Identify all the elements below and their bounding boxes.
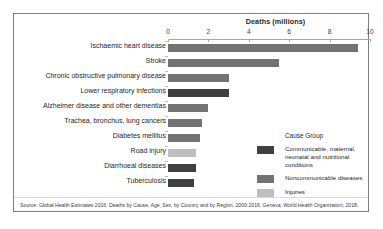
category-label: Lower respiratory infections [0, 87, 166, 94]
x-tick-label: 10 [366, 28, 373, 35]
category-label: Chronic obstructive pulmonary disease [0, 72, 166, 79]
bar [168, 119, 202, 127]
x-axis-title: Deaths (millions) [168, 17, 383, 26]
legend: Cause Group Communicable, maternal, neon… [257, 132, 377, 202]
category-label: Ischaemic heart disease [0, 42, 166, 49]
chart-row: Trachea, bronchus, lung cancers [168, 116, 370, 131]
category-label: Alzheimer disease and other dementias [0, 102, 166, 109]
x-tick-label: 0 [166, 28, 170, 35]
legend-label: Injuries [285, 188, 305, 196]
bar [168, 44, 358, 52]
chart-row: Alzheimer disease and other dementias [168, 101, 370, 116]
bar [168, 104, 208, 112]
legend-label: Communicable, maternal, neonatal and nut… [285, 145, 377, 169]
x-tick-label: 4 [247, 28, 251, 35]
x-tick-label: 2 [207, 28, 211, 35]
legend-item[interactable]: Communicable, maternal, neonatal and nut… [257, 145, 377, 169]
category-label: Road injury [0, 147, 166, 154]
chart-row: Chronic obstructive pulmonary disease [168, 71, 370, 86]
legend-swatch [257, 146, 274, 154]
chart-frame: Deaths (millions) 0246810 Ischaemic hear… [13, 13, 369, 212]
category-label: Stroke [0, 57, 166, 64]
source-note: Source: Global Health Estimates 2016: De… [20, 202, 364, 208]
category-label: Diabetes mellitus [0, 132, 166, 139]
legend-title: Cause Group [257, 132, 377, 139]
chart-row: Stroke [168, 56, 370, 71]
bar [168, 134, 200, 142]
category-label: Trachea, bronchus, lung cancers [0, 117, 166, 124]
legend-item[interactable]: Noncommunicable diseases [257, 174, 377, 183]
x-tick-label: 8 [328, 28, 332, 35]
x-axis-line [168, 39, 370, 40]
bar [168, 89, 229, 97]
legend-swatch [257, 175, 274, 183]
category-label: Diarrhoeal diseases [0, 162, 166, 169]
x-tick-mark [370, 39, 371, 42]
bar [168, 164, 196, 172]
bar [168, 59, 279, 67]
chart-row: Lower respiratory infections [168, 86, 370, 101]
category-label: Tuberculosis [0, 177, 166, 184]
bar [168, 149, 196, 157]
chart-row: Ischaemic heart disease [168, 41, 370, 56]
bar [168, 74, 229, 82]
legend-item[interactable]: Injuries [257, 188, 377, 197]
x-tick-label: 6 [287, 28, 291, 35]
legend-label: Noncommunicable diseases [285, 174, 362, 182]
legend-swatch [257, 189, 274, 197]
bar [168, 179, 194, 187]
source-divider [14, 197, 368, 198]
legend-items: Communicable, maternal, neonatal and nut… [257, 145, 377, 197]
